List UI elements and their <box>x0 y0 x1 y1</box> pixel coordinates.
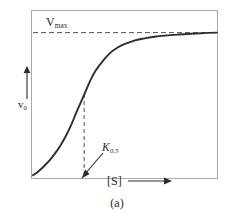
figure-caption: (a) <box>0 196 234 211</box>
sigmoidal-velocity-curve <box>33 33 217 176</box>
k-half-label: K0.5 <box>102 142 119 154</box>
vmax-label: Vmax <box>46 16 67 28</box>
x-axis-arrow-icon <box>128 175 174 187</box>
y-axis-arrow-icon <box>20 64 34 100</box>
y-axis-label: v0 <box>18 99 27 110</box>
enzyme-kinetics-figure: Vmax v0 [S] K0.5 (a) <box>0 0 234 218</box>
x-axis-label: [S] <box>107 175 122 187</box>
plot-canvas <box>31 10 218 179</box>
